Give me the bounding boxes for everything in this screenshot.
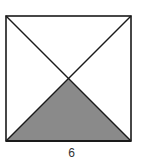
shaded-bottom-triangle bbox=[6, 79, 131, 141]
square-diagram bbox=[0, 0, 143, 162]
side-length-label: 6 bbox=[0, 146, 143, 160]
